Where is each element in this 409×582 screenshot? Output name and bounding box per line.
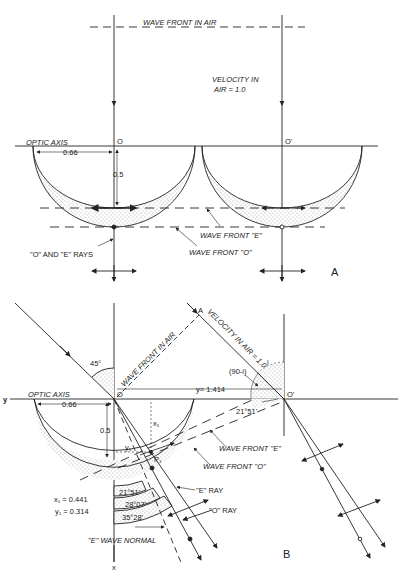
label-dim-066-b: 0.66: [62, 400, 77, 409]
label-angle-2151-top: 21°51': [236, 407, 258, 416]
wave-front-in-air-line-b: [117, 315, 199, 397]
vibration-arrow-o-prime-2: [338, 500, 380, 516]
label-optic-axis-a: OPTIC AXIS: [26, 138, 68, 147]
label-origin-o-b: O: [117, 390, 123, 399]
e-ray-line-o-prime: [284, 399, 370, 558]
stippled-region-left: [33, 146, 193, 227]
label-origin-o-prime-b: O': [287, 390, 295, 399]
label-x1-value: x₁ = 0.441: [54, 495, 88, 504]
label-y-axis: y: [3, 395, 8, 404]
birefringence-diagram: WAVE FRONT IN AIR VELOCITY IN AIR = 1.0 …: [0, 0, 409, 582]
label-angle-90-i: (90-i): [229, 367, 247, 376]
incident-ray-arrow-o-prime: [187, 303, 197, 313]
dot-o-prime-2: [358, 537, 362, 541]
label-o-ray: "O" RAY: [209, 506, 237, 515]
label-wave-front-in-air-b: WAVE FRONT IN AIR: [119, 330, 178, 389]
label-wave-front-e-b: WAVE FRONT "E": [219, 444, 281, 453]
label-angle-45: 45°: [90, 359, 101, 368]
label-e-wave-normal: "E" WAVE NORMAL: [88, 536, 156, 545]
incident-ray-arrow-o: [60, 346, 70, 356]
panel-b: [10, 303, 398, 565]
label-origin-o-prime-a: O': [285, 137, 293, 146]
leader-wave-front-e: [207, 209, 220, 226]
vibration-arrow-o-prime-1: [302, 444, 343, 461]
dot-right: [280, 225, 284, 229]
label-angle-band-3: 35°28': [122, 513, 144, 522]
label-rays-a: "O" AND "E" RAYS: [30, 250, 93, 259]
label-velocity-line2: AIR = 1.0: [213, 85, 246, 94]
label-panel-a: A: [331, 266, 339, 278]
label-p1: P₁: [154, 455, 162, 464]
dot-o-prime-1: [320, 467, 324, 471]
label-wave-front-e-a: WAVE FRONT "E": [200, 231, 262, 240]
vibration-arrow-o-b2: [183, 510, 212, 520]
o-ray-line-o-prime: [284, 399, 385, 547]
label-dim-05-a: 0.5: [113, 170, 123, 179]
label-velocity-line1: VELOCITY IN: [212, 75, 259, 84]
label-wave-front-o-a: WAVE FRONT "O": [189, 248, 252, 257]
label-x1: x₁: [153, 419, 160, 428]
label-y1: y₁: [125, 443, 132, 452]
label-dim-066-a: 0.66: [63, 148, 78, 157]
dot-left: [112, 225, 116, 229]
label-wave-front-in-air-a: WAVE FRONT IN AIR: [143, 18, 217, 27]
label-y1-value: y₁ = 0.314: [55, 507, 89, 516]
angle-45-region: [92, 368, 114, 399]
label-dim-05-b: 0.5: [100, 426, 110, 435]
label-x-axis: x: [112, 563, 116, 572]
label-origin-o-a: O: [117, 137, 123, 146]
label-e-ray: "E" RAY: [196, 486, 223, 495]
label-angle-band-1: 21°51': [119, 488, 141, 497]
point-o-ray-intersection: [150, 466, 154, 470]
leader-rays: [98, 239, 113, 246]
label-y-distance: y= 1.414: [196, 385, 225, 394]
point-p1: [149, 450, 152, 453]
label-velocity-in-air-b: VELOCITY IN AIR = 1.0: [206, 307, 269, 370]
label-wave-front-o-b: WAVE FRONT "O": [203, 462, 266, 471]
dot-e-ray-b: [188, 537, 192, 541]
label-optic-axis-b: OPTIC AXIS: [28, 390, 70, 399]
label-panel-b: B: [283, 548, 290, 560]
leader-e-ray: [177, 487, 195, 490]
label-point-a: A: [198, 306, 203, 315]
leader-wave-front-o: [176, 228, 197, 246]
label-angle-band-2: 28°07': [125, 500, 147, 509]
